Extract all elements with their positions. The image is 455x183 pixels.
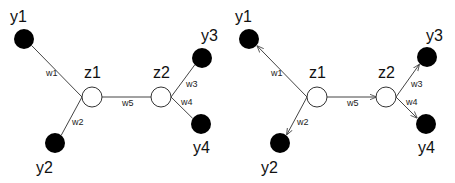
observed-node-y1	[239, 29, 259, 49]
edge-label-w3: w3	[185, 79, 198, 89]
observed-node-y1	[14, 29, 34, 49]
observed-node-y2	[270, 133, 290, 153]
observed-node-y4	[191, 114, 211, 134]
node-label-y3: y3	[201, 27, 218, 44]
latent-node-z1	[82, 87, 102, 107]
edge-label-w2: w2	[71, 117, 84, 127]
edge-label-w1: w1	[45, 68, 58, 78]
node-label-z1: z1	[84, 64, 101, 81]
latent-node-z2	[376, 87, 396, 107]
panel-directed: w1w2w5w3w4y1y2y3y4z1z2	[235, 8, 443, 176]
edge-label-w1: w1	[270, 68, 283, 78]
observed-node-y4	[416, 114, 436, 134]
node-label-y4: y4	[418, 139, 435, 156]
node-label-y3: y3	[426, 27, 443, 44]
observed-node-y3	[417, 47, 437, 67]
edge-label-w4: w4	[180, 97, 193, 107]
panel-undirected: w1w2w5w3w4y1y2y3y4z1z2	[10, 8, 218, 176]
node-label-y1: y1	[235, 8, 252, 25]
node-label-y1: y1	[10, 8, 27, 25]
node-label-y2: y2	[261, 159, 278, 176]
observed-node-y3	[192, 48, 212, 68]
edge-label-w3: w3	[410, 79, 423, 89]
node-label-y4: y4	[193, 139, 210, 156]
edge-label-w5: w5	[121, 98, 134, 108]
edge-label-w4: w4	[405, 97, 418, 107]
node-label-z2: z2	[378, 64, 395, 81]
edge-label-w5: w5	[346, 98, 359, 108]
latent-node-z1	[307, 87, 327, 107]
edge-label-w2: w2	[296, 117, 309, 127]
observed-node-y2	[45, 133, 65, 153]
latent-variable-graph-diagram: w1w2w5w3w4y1y2y3y4z1z2w1w2w5w3w4y1y2y3y4…	[0, 0, 455, 183]
node-label-z1: z1	[309, 64, 326, 81]
latent-node-z2	[151, 87, 171, 107]
node-label-z2: z2	[153, 64, 170, 81]
node-label-y2: y2	[36, 159, 53, 176]
edge-w2	[287, 97, 307, 134]
